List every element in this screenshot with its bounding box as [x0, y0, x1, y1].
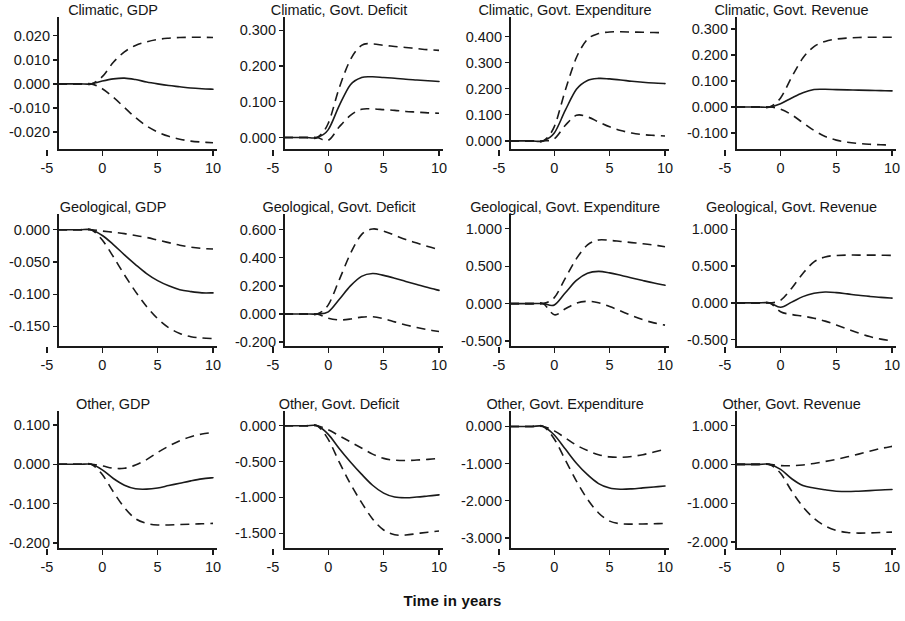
x-tick-label: 10: [657, 357, 673, 373]
x-tick-label: -5: [40, 357, 53, 373]
chart-panel: Other, GDP0.1000.000-0.100-0.200-50510: [0, 394, 226, 596]
y-tick-label: 0.000: [692, 295, 728, 311]
x-tick-label: -5: [718, 160, 731, 176]
y-tick-label: 0.500: [692, 258, 728, 274]
panel-plot: 1.0000.5000.000-0.500-50510: [452, 197, 678, 394]
y-tick-label: -0.500: [235, 454, 276, 470]
axis-spines: [736, 411, 896, 549]
y-tick-label: 1.000: [692, 221, 728, 237]
y-tick-label: 0.000: [14, 456, 50, 472]
chart-panel: Other, Govt. Revenue1.0000.000-1.000-2.0…: [678, 394, 905, 596]
y-tick-label: 0.600: [240, 222, 276, 238]
x-tick-label: 10: [431, 357, 447, 373]
x-tick-label: 10: [657, 160, 673, 176]
y-tick-label: 0.010: [14, 52, 50, 68]
x-tick-label: 5: [832, 160, 840, 176]
series-line-upper: [736, 37, 892, 107]
y-tick-label: 0.000: [240, 418, 276, 434]
series-line-mean: [284, 425, 439, 498]
x-tick-label: -5: [40, 559, 53, 575]
y-tick-label: -2.000: [461, 493, 502, 509]
x-tick-label: 5: [832, 559, 840, 575]
y-tick-label: 0.000: [466, 296, 502, 312]
series-line-mean: [510, 271, 665, 305]
x-tick-label: -5: [40, 160, 53, 176]
y-tick-label: -0.050: [9, 254, 50, 270]
y-tick-label: 0.000: [14, 222, 50, 238]
chart-panel: Geological, Govt. Deficit0.6000.4000.200…: [226, 197, 452, 394]
x-tick-label: 0: [777, 357, 785, 373]
series-line-mean: [510, 78, 665, 141]
y-tick-label: -0.500: [687, 332, 728, 348]
chart-panel: Climatic, Govt. Expenditure0.4000.3000.2…: [452, 0, 678, 197]
x-tick-label: 10: [657, 559, 673, 575]
y-tick-label: 0.020: [14, 28, 50, 44]
series-line-mean: [58, 464, 213, 489]
y-tick-label: -0.100: [9, 496, 50, 512]
y-tick-label: 0.000: [692, 456, 728, 472]
x-tick-label: 5: [154, 160, 162, 176]
series-line-lower: [58, 84, 213, 143]
y-tick-label: 0.000: [466, 418, 502, 434]
series-line-upper: [510, 426, 665, 457]
x-tick-label: 10: [884, 559, 900, 575]
x-tick-label: 5: [154, 357, 162, 373]
y-tick-label: 0.300: [692, 21, 728, 37]
x-tick-label: 0: [550, 357, 558, 373]
y-tick-label: 0.200: [240, 278, 276, 294]
y-tick-label: -2.000: [687, 534, 728, 550]
y-tick-label: 0.100: [240, 94, 276, 110]
y-tick-label: 0.000: [14, 76, 50, 92]
y-tick-label: -3.000: [461, 530, 502, 546]
y-tick-label: 0.200: [692, 47, 728, 63]
chart-panel: Geological, Govt. Revenue1.0000.5000.000…: [678, 197, 905, 394]
y-tick-label: 0.000: [240, 130, 276, 146]
series-line-lower: [736, 464, 892, 533]
y-tick-label: -1.000: [461, 456, 502, 472]
axis-spines: [284, 214, 443, 347]
x-tick-label: 5: [606, 357, 614, 373]
x-tick-label: 5: [380, 160, 388, 176]
y-tick-label: -0.100: [9, 286, 50, 302]
panel-plot: 0.000-0.050-0.100-0.150-50510: [0, 197, 226, 394]
y-tick-label: 0.400: [240, 250, 276, 266]
y-tick-label: 0.000: [240, 306, 276, 322]
x-tick-label: 10: [205, 559, 221, 575]
y-tick-label: -0.500: [461, 333, 502, 349]
x-tick-label: 5: [606, 160, 614, 176]
x-tick-label: 0: [550, 160, 558, 176]
series-line-upper: [58, 230, 213, 249]
series-line-upper: [58, 432, 213, 468]
x-tick-label: 10: [431, 160, 447, 176]
axis-spines: [284, 411, 443, 549]
x-tick-label: -5: [718, 559, 731, 575]
y-tick-label: 0.300: [466, 55, 502, 71]
x-tick-label: 5: [380, 559, 388, 575]
panel-plot: 0.000-0.500-1.000-1.500-50510: [226, 394, 452, 596]
x-tick-label: 0: [777, 559, 785, 575]
y-tick-label: -0.200: [9, 535, 50, 551]
panel-grid: Climatic, GDP0.0200.0100.000-0.010-0.020…: [0, 0, 905, 596]
x-tick-label: -5: [492, 559, 505, 575]
x-tick-label: -5: [266, 160, 279, 176]
figure-multipanel-impulse-response: Climatic, GDP0.0200.0100.000-0.010-0.020…: [0, 0, 905, 621]
y-tick-label: -0.010: [9, 100, 50, 116]
x-tick-label: -5: [266, 357, 279, 373]
x-tick-label: 10: [205, 357, 221, 373]
series-line-upper: [284, 229, 439, 315]
y-tick-label: 0.200: [466, 81, 502, 97]
series-line-lower: [510, 115, 665, 141]
chart-panel: Climatic, Govt. Deficit0.3000.2000.1000.…: [226, 0, 452, 197]
y-tick-label: -1.000: [687, 495, 728, 511]
x-tick-label: 5: [832, 357, 840, 373]
panel-plot: 0.1000.000-0.100-0.200-50510: [0, 394, 226, 596]
x-tick-label: 0: [324, 160, 332, 176]
chart-panel: Climatic, Govt. Revenue0.3000.2000.1000.…: [678, 0, 905, 197]
x-tick-label: 5: [606, 559, 614, 575]
series-line-upper: [284, 426, 439, 461]
series-line-lower: [736, 302, 892, 341]
y-tick-label: 0.000: [466, 133, 502, 149]
y-tick-label: 0.300: [240, 22, 276, 38]
panel-plot: 0.3000.2000.1000.000-50510: [226, 0, 452, 197]
series-line-upper: [736, 446, 892, 465]
